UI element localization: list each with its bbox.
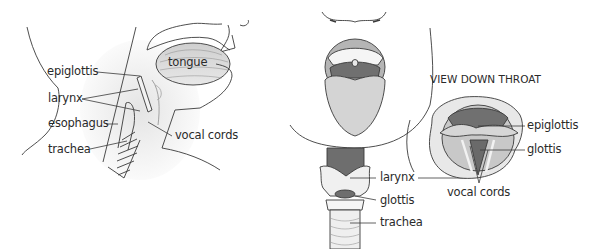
throat-view-drawing bbox=[429, 97, 522, 179]
label-epiglottis-throat: epiglottis bbox=[527, 120, 578, 132]
throat-anatomy-diagram: tongue epiglottis larynx esophagus vocal… bbox=[0, 0, 594, 249]
label-epiglottis-side: epiglottis bbox=[47, 66, 98, 78]
label-vocal-cords-side: vocal cords bbox=[175, 130, 238, 142]
label-tongue: tongue bbox=[168, 57, 207, 69]
label-larynx-side: larynx bbox=[48, 93, 83, 105]
label-glottis-front: glottis bbox=[380, 195, 414, 207]
label-esophagus: esophagus bbox=[48, 118, 109, 130]
label-trachea-front: trachea bbox=[380, 217, 423, 229]
label-trachea-side: trachea bbox=[48, 144, 91, 156]
label-vocal-cords-throat: vocal cords bbox=[447, 187, 510, 199]
front-view-drawing bbox=[290, 12, 433, 249]
label-glottis-throat: glottis bbox=[527, 144, 561, 156]
heading-view-down-throat: VIEW DOWN THROAT bbox=[430, 74, 541, 85]
label-larynx-front: larynx bbox=[380, 172, 415, 184]
